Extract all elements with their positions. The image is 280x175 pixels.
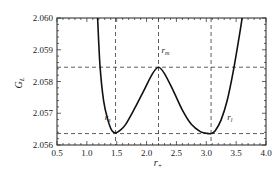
x-axis-label: r+	[154, 157, 163, 170]
reference-lines	[57, 18, 266, 145]
plot-frame	[57, 18, 266, 145]
annotation-r-l: rl	[227, 112, 233, 123]
y-tick-label: 2.056	[33, 140, 54, 150]
x-tick-label: 0.5	[51, 148, 63, 158]
tick-labels: 0.51.01.52.02.53.03.54.02.0602.0592.0582…	[33, 13, 272, 158]
x-tick-label: 3.5	[231, 148, 243, 158]
y-tick-label: 2.057	[33, 108, 54, 118]
y-tick-label: 2.060	[33, 13, 54, 23]
data-curve	[98, 18, 243, 134]
plot-border	[57, 18, 266, 145]
axis-ticks	[57, 18, 266, 145]
x-tick-label: 2.5	[171, 148, 183, 158]
chart-canvas: 0.51.01.52.02.53.03.54.02.0602.0592.0582…	[0, 0, 280, 175]
y-tick-label: 2.059	[33, 45, 54, 55]
y-tick-label: 2.058	[33, 77, 54, 87]
annotation-r-m: rm	[162, 45, 171, 56]
annotation-r-s: rs	[105, 112, 112, 123]
gl-curve	[98, 18, 243, 134]
x-tick-label: 3.0	[201, 148, 213, 158]
x-tick-label: 2.0	[141, 148, 153, 158]
x-tick-label: 1.0	[81, 148, 93, 158]
y-axis-label: GL	[13, 77, 26, 88]
x-tick-label: 4.0	[260, 148, 272, 158]
x-tick-label: 1.5	[111, 148, 123, 158]
annotations: rsrmrl	[105, 45, 233, 123]
